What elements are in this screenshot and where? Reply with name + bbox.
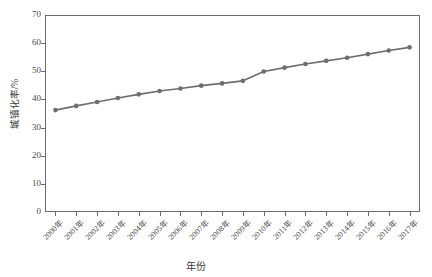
x-tick-label-2013: 2013年 (313, 219, 336, 242)
y-tick-mark-60 (41, 43, 45, 44)
x-tick-label-2003: 2003年 (105, 219, 128, 242)
y-tick-label-70: 70 (0, 10, 41, 19)
x-tick-mark-2003 (118, 212, 119, 216)
x-tick-label-2007: 2007年 (188, 219, 211, 242)
x-tick-mark-2015 (368, 212, 369, 216)
y-tick-label-10: 10 (0, 179, 41, 188)
y-tick-mark-10 (41, 184, 45, 185)
x-tick-mark-2001 (76, 212, 77, 216)
x-tick-label-2012: 2012年 (292, 219, 315, 242)
x-axis-title: 年份 (186, 258, 206, 273)
y-tick-label-0: 0 (0, 207, 41, 216)
x-tick-label-2006: 2006年 (167, 219, 190, 242)
x-tick-label-2008: 2008年 (209, 219, 232, 242)
x-tick-mark-2005 (160, 212, 161, 216)
x-tick-mark-2013 (326, 212, 327, 216)
x-tick-label-2010: 2010年 (251, 219, 274, 242)
y-axis-title: 城镇化率/% (7, 64, 21, 144)
x-tick-mark-2017 (410, 212, 411, 216)
x-tick-label-2014: 2014年 (334, 219, 357, 242)
x-tick-label-2011: 2011年 (272, 219, 294, 241)
x-tick-mark-2011 (285, 212, 286, 216)
y-tick-mark-30 (41, 128, 45, 129)
x-tick-label-2005: 2005年 (147, 219, 170, 242)
x-tick-label-2016: 2016年 (376, 219, 399, 242)
x-tick-mark-2008 (222, 212, 223, 216)
y-tick-label-60: 60 (0, 38, 41, 47)
x-tick-label-2001: 2001年 (63, 219, 86, 242)
x-tick-label-2017: 2017年 (397, 219, 420, 242)
y-tick-mark-50 (41, 71, 45, 72)
x-tick-mark-2000 (55, 212, 56, 216)
plot-area (45, 15, 420, 212)
y-tick-label-20: 20 (0, 151, 41, 160)
x-tick-label-2002: 2002年 (84, 219, 107, 242)
x-tick-mark-2010 (264, 212, 265, 216)
x-tick-mark-2016 (389, 212, 390, 216)
y-tick-mark-40 (41, 99, 45, 100)
x-tick-mark-2009 (243, 212, 244, 216)
x-tick-label-2004: 2004年 (126, 219, 149, 242)
x-tick-label-2000: 2000年 (42, 219, 65, 242)
x-tick-mark-2002 (97, 212, 98, 216)
x-tick-mark-2006 (180, 212, 181, 216)
x-tick-mark-2012 (305, 212, 306, 216)
x-tick-mark-2014 (347, 212, 348, 216)
y-tick-mark-20 (41, 156, 45, 157)
urbanization-rate-line-chart: 010203040506070 城镇化率/% 2000年2001年2002年20… (0, 0, 432, 277)
x-tick-mark-2007 (201, 212, 202, 216)
x-tick-label-2009: 2009年 (230, 219, 253, 242)
x-tick-label-2015: 2015年 (355, 219, 378, 242)
x-tick-mark-2004 (139, 212, 140, 216)
